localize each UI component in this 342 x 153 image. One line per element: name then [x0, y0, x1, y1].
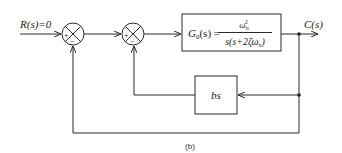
block-diagram: R(s)=0 + − + − G0(s) = ωn2 s(s+2ζωn) C(s…: [0, 0, 342, 153]
feedback-block-bs: bs: [195, 76, 237, 114]
summing-junction-1: + −: [62, 23, 84, 46]
figure-caption: (b): [185, 142, 195, 151]
transfer-denominator: s(s+2ζωn): [225, 36, 265, 48]
minus-sign: −: [130, 37, 135, 46]
summing-junction-2: + −: [122, 23, 144, 46]
input-label: R(s)=0: [19, 18, 52, 31]
g0-symbol: G0(s) =: [188, 27, 220, 41]
bs-label: bs: [211, 89, 221, 101]
inner-feedback-return-line: [134, 46, 195, 95]
plus-sign: +: [64, 31, 69, 40]
outer-feedback-line: [73, 46, 299, 133]
minus-sign: −: [70, 37, 75, 46]
plus-sign: +: [124, 31, 129, 40]
transfer-numerator: ωn2: [239, 19, 248, 31]
output-label: C(s): [304, 18, 323, 31]
forward-block-g0: G0(s) = ωn2 s(s+2ζωn): [182, 14, 281, 51]
